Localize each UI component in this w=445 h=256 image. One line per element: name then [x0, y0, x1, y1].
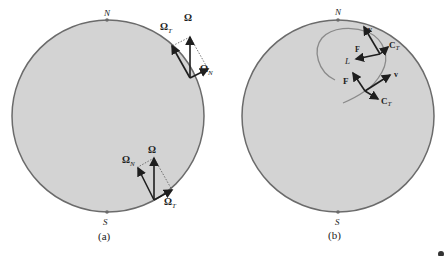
f-label: F: [355, 45, 360, 54]
caption-b: (b): [328, 229, 341, 242]
north-label-a: N: [103, 8, 111, 18]
corner-mark: [438, 251, 444, 256]
panel-a: N S (a) Ω ΩT ΩN Ω ΩN ΩT: [12, 8, 213, 243]
caption-a: (a): [98, 230, 111, 243]
omegaT-label-lower: ΩT: [164, 196, 177, 210]
north-pole-dot-b: [336, 18, 340, 22]
omega-label: Ω: [184, 12, 192, 23]
panel-b: N S (b) v CT F L F v CT: [242, 7, 434, 242]
dotted-omega-to-omegaT: [172, 37, 190, 46]
south-pole-dot-a: [105, 210, 109, 214]
omegaT-label: ΩT: [160, 21, 173, 35]
sphere-b: [242, 20, 434, 212]
omegaN-label: ΩN: [200, 63, 213, 77]
south-label-b: S: [335, 217, 340, 227]
sphere-a: [12, 20, 204, 212]
north-label-b: N: [334, 7, 342, 17]
south-label-a: S: [103, 217, 108, 227]
v-label: v: [368, 25, 372, 34]
v-label-lower: v: [394, 70, 398, 79]
figure-canvas: N S (a) Ω ΩT ΩN Ω ΩN ΩT N: [0, 0, 445, 256]
l-label: L: [344, 56, 350, 66]
f-label-lower: F: [343, 76, 349, 86]
north-pole-dot-a: [105, 18, 109, 22]
south-pole-dot-b: [336, 210, 340, 214]
omega-label-lower: Ω: [148, 144, 156, 155]
